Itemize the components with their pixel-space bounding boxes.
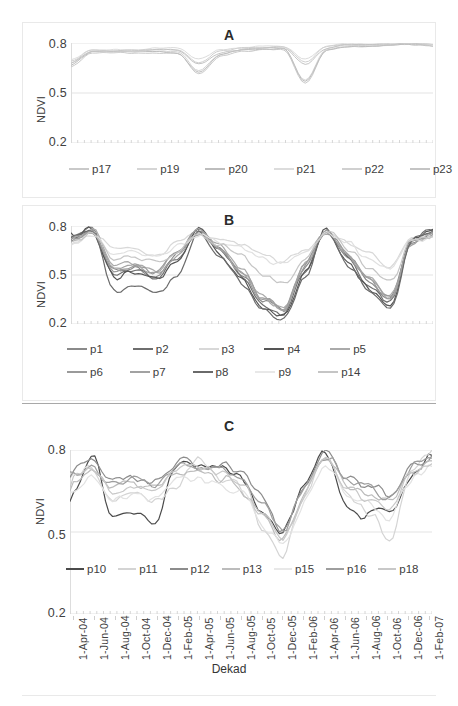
legend-item-p18[interactable]: p18: [378, 563, 418, 575]
legend-swatch-p13: [222, 568, 240, 570]
legend-swatch-p19: [137, 168, 157, 170]
legend-label-p20: p20: [228, 163, 247, 175]
legend-swatch-p5: [330, 348, 350, 350]
legend-label-p18: p18: [399, 563, 418, 575]
legend-label-p10: p10: [87, 563, 106, 575]
x-tick-label-15: 1-Oct-06: [391, 618, 403, 660]
legend-item-p1[interactable]: p1: [67, 343, 103, 355]
x-tick-label-9: 1-Oct-05: [265, 618, 277, 660]
legend-label-p19: p19: [160, 163, 179, 175]
legend-item-p21[interactable]: p21: [274, 163, 316, 175]
panel-b-ytick-0: 0.8: [37, 220, 67, 234]
legend-swatch-p3: [199, 348, 219, 350]
legend-item-p3[interactable]: p3: [199, 343, 235, 355]
x-tick-label-12: 1-Apr-06: [328, 618, 340, 660]
legend-swatch-p17: [69, 168, 89, 170]
x-tick-label-13: 1-Jun-06: [349, 617, 361, 660]
legend-swatch-p1: [67, 348, 87, 350]
panel-a-legend: p17p19p20p21p22p23: [69, 163, 435, 175]
legend-item-p5[interactable]: p5: [330, 343, 366, 355]
panel-c-legend: p10p11p12p13p15p16p18: [66, 563, 434, 575]
panel-a-ytick-2: 0.2: [37, 135, 67, 149]
legend-item-p17[interactable]: p17: [69, 163, 111, 175]
x-major-tick-3: [136, 616, 137, 620]
legend-item-p8[interactable]: p8: [193, 366, 229, 378]
legend-swatch-p7: [130, 371, 150, 373]
panel-c-ytick-0: 0.8: [36, 443, 66, 457]
panel-a-title: A: [23, 27, 435, 43]
legend-c-row: p10p11p12p13p15p16p18: [66, 563, 434, 575]
x-tick-label-7: 1-Jun-05: [224, 617, 236, 660]
ndvi-multipanel-figure: A NDVI 0.8 0.5 0.2 p17p19p20p21p22p23 B …: [0, 0, 458, 706]
legend-item-p4[interactable]: p4: [264, 343, 300, 355]
panel-a-ytick-1: 0.5: [37, 86, 67, 100]
x-major-tick-0: [73, 616, 74, 620]
legend-label-p12: p12: [191, 563, 210, 575]
legend-label-p21: p21: [297, 163, 316, 175]
legend-label-p3: p3: [222, 343, 235, 355]
legend-item-p6[interactable]: p6: [67, 366, 103, 378]
x-axis-title: Dekad: [22, 662, 436, 676]
legend-swatch-p2: [133, 348, 153, 350]
legend-item-p12[interactable]: p12: [170, 563, 210, 575]
legend-label-p14: p14: [341, 366, 360, 378]
series-line-p3: [71, 232, 433, 268]
panel-c: C NDVI 0.8 0.5 0.2 p10p11p12p13p15p16p18…: [22, 410, 436, 696]
legend-label-p7: p7: [153, 366, 166, 378]
x-tick-label-3: 1-Oct-04: [140, 618, 152, 660]
legend-item-p13[interactable]: p13: [222, 563, 262, 575]
legend-swatch-p4: [264, 348, 284, 350]
series-line-p13: [70, 458, 432, 541]
x-tick-label-14: 1-Aug-06: [370, 615, 382, 660]
legend-swatch-p22: [342, 168, 362, 170]
legend-swatch-p15: [274, 568, 292, 570]
legend-label-p4: p4: [287, 343, 300, 355]
x-major-tick-5: [178, 616, 179, 620]
panel-a: A NDVI 0.8 0.5 0.2 p17p19p20p21p22p23: [22, 22, 436, 198]
legend-swatch-p9: [255, 371, 275, 373]
legend-item-p19[interactable]: p19: [137, 163, 179, 175]
legend-swatch-p23: [410, 168, 430, 170]
legend-item-p20[interactable]: p20: [205, 163, 247, 175]
panel-b-ytick-1: 0.5: [37, 268, 67, 282]
legend-item-p16[interactable]: p16: [326, 563, 366, 575]
legend-item-p11[interactable]: p11: [118, 563, 157, 575]
legend-a-row: p17p19p20p21p22p23: [69, 163, 435, 175]
x-tick-label-6: 1-Apr-05: [203, 618, 215, 660]
legend-item-p9[interactable]: p9: [255, 366, 291, 378]
legend-item-p7[interactable]: p7: [130, 366, 166, 378]
x-tick-label-0: 1-Apr-04: [77, 618, 89, 660]
x-major-tick-17: [429, 616, 430, 620]
series-line-p9: [71, 232, 433, 270]
panel-a-plot-area: [71, 43, 433, 143]
legend-swatch-p12: [170, 568, 188, 570]
legend-swatch-p8: [193, 371, 213, 373]
legend-item-p10[interactable]: p10: [66, 563, 106, 575]
x-major-tick-10: [282, 616, 283, 620]
legend-label-p23: p23: [433, 163, 452, 175]
x-major-tick-2: [115, 616, 116, 620]
legend-swatch-p18: [378, 568, 396, 570]
panel-b-plot-area: [71, 226, 433, 324]
legend-label-p1: p1: [90, 343, 103, 355]
legend-label-p16: p16: [347, 563, 366, 575]
plot-c-svg: [70, 450, 432, 614]
legend-item-p22[interactable]: p22: [342, 163, 384, 175]
x-major-tick-9: [262, 616, 263, 620]
legend-label-p11: p11: [139, 563, 157, 575]
panel-c-y-axis-title: NDVI: [34, 498, 46, 525]
legend-item-p23[interactable]: p23: [410, 163, 452, 175]
panel-b-y-axis-title: NDVI: [35, 281, 47, 308]
x-major-tick-1: [94, 616, 95, 620]
x-major-tick-13: [345, 616, 346, 620]
panel-a-ytick-0: 0.8: [37, 37, 67, 51]
legend-item-p15[interactable]: p15: [274, 563, 314, 575]
legend-item-p14[interactable]: p14: [318, 366, 360, 378]
legend-swatch-p21: [274, 168, 294, 170]
legend-label-p22: p22: [365, 163, 384, 175]
x-tick-label-8: 1-Aug-05: [245, 615, 257, 660]
legend-item-p2[interactable]: p2: [133, 343, 169, 355]
legend-label-p8: p8: [216, 366, 229, 378]
legend-swatch-p10: [66, 568, 84, 570]
panel-b-legend-row1: p1p2p3p4p5: [67, 343, 435, 355]
